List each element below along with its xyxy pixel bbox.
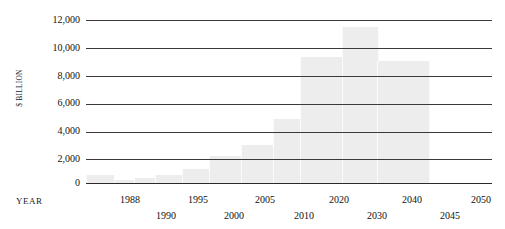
- x-axis-tick-label: 1988: [120, 194, 140, 205]
- x-axis-tick-label: 2010: [294, 210, 314, 221]
- gridline: [86, 48, 492, 49]
- bar-series: [86, 14, 492, 183]
- gridline: [86, 20, 492, 21]
- y-axis-tick-label: 0: [8, 178, 80, 188]
- gridline: [86, 104, 492, 105]
- gridline: [86, 76, 492, 77]
- x-axis-tick-label: 1995: [188, 194, 208, 205]
- y-axis-tick-label: 2,000: [8, 154, 80, 164]
- x-axis-tick-label: 1990: [156, 210, 176, 221]
- x-axis-tick-label: 2045: [440, 210, 460, 221]
- bar: [377, 61, 430, 183]
- x-axis-tick-label: 2005: [255, 194, 275, 205]
- chart-title-cropped: [78, 0, 268, 5]
- x-axis-label: YEAR: [16, 196, 43, 206]
- x-axis-tick-label: 2000: [224, 210, 244, 221]
- bar: [273, 119, 302, 183]
- x-axis-tick-label: 2030: [367, 210, 387, 221]
- bar: [241, 145, 275, 183]
- y-axis-tick-label: 12,000: [8, 15, 80, 25]
- x-axis-tick-label: 2040: [402, 194, 422, 205]
- bar: [86, 175, 115, 183]
- gridline: [86, 132, 492, 133]
- bar: [182, 169, 211, 183]
- bar-chart: $ BILLION 12,00010,0008,0006,0004,0002,0…: [0, 0, 505, 229]
- gridline: [86, 159, 492, 160]
- y-axis-tick-column: 12,00010,0008,0006,0004,0002,0000: [8, 0, 80, 229]
- y-axis-tick-label: 10,000: [8, 43, 80, 53]
- x-axis-tick-label: 2020: [329, 194, 349, 205]
- bar: [155, 175, 184, 183]
- plot-area: [86, 14, 492, 189]
- y-axis-tick-label: 6,000: [8, 98, 80, 108]
- x-axis-tick-label: 2050: [471, 194, 491, 205]
- y-axis-tick-label: 4,000: [8, 126, 80, 136]
- bar: [209, 156, 243, 183]
- y-axis-tick-label: 8,000: [8, 71, 80, 81]
- x-axis-baseline: [86, 183, 492, 184]
